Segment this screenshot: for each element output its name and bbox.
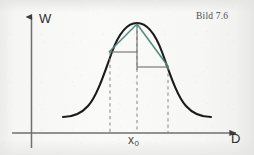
y-axis-label: W — [39, 12, 51, 25]
left-chord — [109, 24, 137, 52]
x-tick-subscript: 0 — [135, 139, 139, 148]
figure-bild-7-6: W D x0 Bild 7.6 — [0, 0, 254, 155]
x-tick-label-x0: x0 — [128, 134, 138, 146]
figure-caption: Bild 7.6 — [196, 12, 228, 22]
right-chord — [137, 24, 169, 67]
x-axis-label: D — [231, 132, 240, 145]
x-tick-base: x — [128, 133, 134, 147]
